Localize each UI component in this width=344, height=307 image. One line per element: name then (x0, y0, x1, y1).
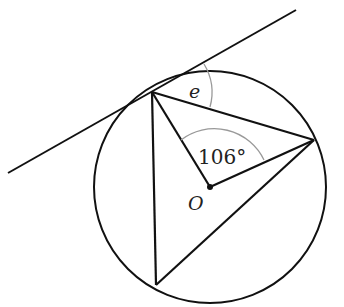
center-point (207, 184, 213, 190)
center-o-label: O (188, 192, 204, 214)
chord-ac (152, 92, 156, 285)
angle-106-label: 106° (198, 145, 246, 169)
circle-theorem-diagram: e 106° O (0, 0, 344, 307)
angle-e-label: e (189, 80, 200, 102)
tangent-line (8, 10, 296, 173)
